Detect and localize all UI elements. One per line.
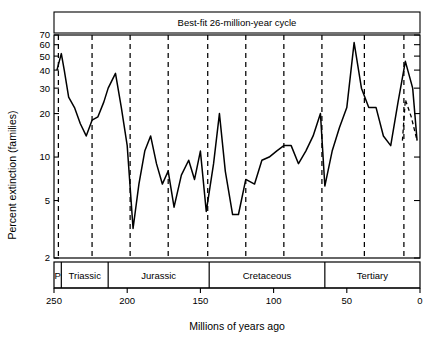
period-label: Triassic	[69, 270, 102, 281]
cycle-banner: Best-fit 26-million-year cycle	[54, 12, 420, 33]
cycle-dashed-lines	[58, 35, 404, 258]
y-tick-label: 50	[39, 51, 50, 62]
x-tick-label: 50	[342, 295, 353, 306]
extinction-curve	[57, 43, 417, 229]
x-tick-label: 0	[417, 295, 422, 306]
period-label: Jurassic	[141, 270, 176, 281]
x-tick-label: 150	[192, 295, 208, 306]
frame-rect	[54, 35, 420, 258]
period-label: Tertiary	[357, 270, 388, 281]
y-axis-title: Percent extinction (families)	[6, 111, 18, 240]
period-label: Cretaceous	[243, 270, 292, 281]
banner-title: Best-fit 26-million-year cycle	[178, 17, 297, 28]
y-tick-label: 40	[39, 65, 50, 76]
y-tick-label: 60	[39, 39, 50, 50]
x-axis-ticks: 250200150100500	[46, 288, 423, 306]
extinction-polyline	[57, 43, 417, 229]
y-tick-label: 30	[39, 83, 50, 94]
x-tick-label: 200	[119, 295, 135, 306]
y-tick-label: 10	[39, 151, 50, 162]
x-tick-label: 100	[266, 295, 282, 306]
period-label: P	[54, 270, 60, 281]
plot-frame	[54, 35, 420, 258]
y-tick-label: 20	[39, 108, 50, 119]
y-tick-label: 70	[39, 29, 50, 40]
y-axis-ticks: 2510203040506070	[39, 29, 59, 263]
y-tick-label: 5	[45, 195, 50, 206]
x-axis-title: Millions of years ago	[189, 320, 285, 332]
extinction-periodicity-figure: Best-fit 26-million-year cycle 251020304…	[0, 0, 443, 344]
chart-svg: Best-fit 26-million-year cycle 251020304…	[0, 0, 443, 344]
geologic-period-bands: PTriassicJurassicCretaceousTertiary	[54, 262, 420, 288]
y-tick-label: 2	[45, 252, 50, 263]
right-axis-ticks	[414, 35, 420, 258]
x-tick-label: 250	[46, 295, 62, 306]
